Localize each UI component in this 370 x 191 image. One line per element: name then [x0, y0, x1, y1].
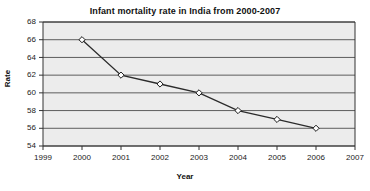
- y-tick-marks: [39, 22, 43, 146]
- x-tick-label-2000: 2000: [73, 153, 91, 162]
- x-tick-label-2005: 2005: [268, 153, 286, 162]
- y-tick-label-66: 66: [27, 35, 36, 44]
- x-tick-label-2007: 2007: [346, 153, 364, 162]
- y-tick-label-62: 62: [27, 70, 36, 79]
- y-tick-labels: 5456586062646668: [27, 17, 36, 150]
- x-tick-label-2002: 2002: [151, 153, 169, 162]
- x-tick-label-1999: 1999: [34, 153, 52, 162]
- plot-background: [43, 22, 355, 146]
- x-tick-label-2006: 2006: [307, 153, 325, 162]
- y-tick-label-56: 56: [27, 123, 36, 132]
- x-tick-marks: [43, 146, 355, 150]
- y-tick-label-64: 64: [27, 53, 36, 62]
- y-tick-label-54: 54: [27, 141, 36, 150]
- chart-container: Infant mortality rate in India from 2000…: [0, 0, 370, 191]
- y-tick-label-60: 60: [27, 88, 36, 97]
- x-tick-label-2001: 2001: [112, 153, 130, 162]
- line-chart-plot: 5456586062646668 19992000200120022003200…: [0, 0, 370, 191]
- x-tick-labels: 199920002001200220032004200520062007: [34, 153, 364, 162]
- x-tick-label-2003: 2003: [190, 153, 208, 162]
- y-tick-label-68: 68: [27, 17, 36, 26]
- x-tick-label-2004: 2004: [229, 153, 247, 162]
- y-tick-label-58: 58: [27, 106, 36, 115]
